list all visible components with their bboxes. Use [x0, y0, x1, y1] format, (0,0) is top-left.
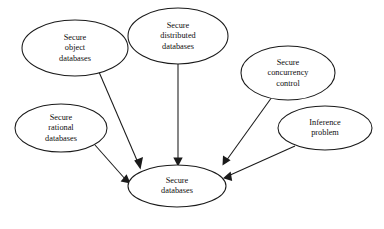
label-secure-concurrency-control-line2: concurrency: [268, 68, 310, 77]
label-secure-concurrency-control-line3: control: [276, 79, 300, 88]
label-secure-databases-line1: Secure: [166, 176, 189, 185]
label-secure-object-databases-line2: object: [65, 43, 86, 52]
arrowhead-object: [134, 157, 143, 170]
label-secure-object-databases-line1: Secure: [64, 33, 87, 42]
edge-line-rational: [95, 145, 126, 180]
label-secure-rational-databases-line1: Secure: [50, 113, 73, 122]
node-secure-concurrency-control[interactable]: Secure concurrency control: [241, 46, 335, 100]
diagram-canvas: Secure object databases Secure distribut…: [0, 0, 384, 229]
edge-concurrency-to-secure: [223, 97, 273, 166]
label-secure-distributed-databases-line1: Secure: [167, 21, 190, 30]
edge-line-concurrency: [226, 97, 272, 161]
label-secure-distributed-databases-line2: distributed: [160, 31, 196, 40]
label-secure-rational-databases-line2: rational: [48, 123, 74, 132]
edge-distributed-to-secure: [173, 64, 182, 167]
edge-line-object: [99, 72, 139, 165]
node-secure-databases[interactable]: Secure databases: [128, 165, 226, 207]
edge-inference-to-secure: [223, 146, 295, 181]
label-secure-databases-line2: databases: [161, 186, 193, 195]
edge-line-inference: [228, 146, 295, 176]
node-secure-object-databases[interactable]: Secure object databases: [22, 20, 128, 76]
label-secure-concurrency-control-line1: Secure: [277, 58, 300, 67]
label-inference-problem-line2: problem: [311, 128, 339, 137]
label-secure-distributed-databases-line3: databases: [162, 42, 194, 51]
node-inference-problem[interactable]: Inference problem: [278, 106, 372, 150]
label-secure-object-databases-line3: databases: [59, 54, 91, 63]
edge-rational-to-secure: [95, 145, 131, 184]
edge-object-to-secure: [99, 72, 143, 170]
concept-diagram: Secure object databases Secure distribut…: [0, 0, 384, 229]
node-secure-rational-databases[interactable]: Secure rational databases: [15, 104, 107, 152]
label-inference-problem-line1: Inference: [309, 118, 341, 127]
node-secure-distributed-databases[interactable]: Secure distributed databases: [128, 8, 228, 64]
label-secure-rational-databases-line3: databases: [45, 134, 77, 143]
